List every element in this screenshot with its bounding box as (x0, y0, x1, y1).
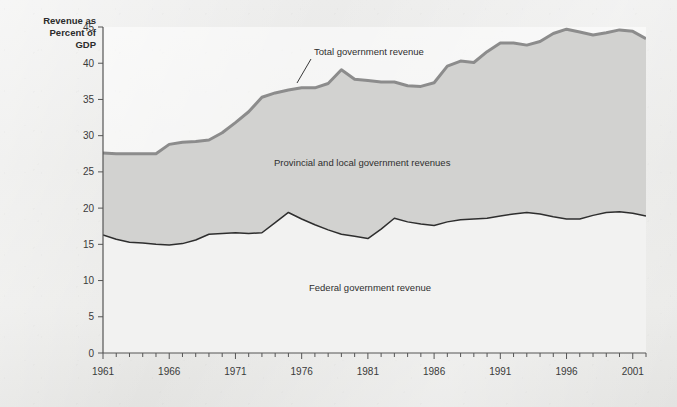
x-tick-label: 1996 (555, 366, 578, 377)
x-tick-label: 1966 (158, 366, 181, 377)
y-axis-title: Revenue as Percent of GDP (43, 15, 97, 50)
chart-svg: 051015202530354045 196119661971197619811… (0, 0, 677, 407)
annotation-federal-label: Federal government revenue (309, 282, 431, 293)
x-tick-label: 1961 (92, 366, 115, 377)
annotation-provincial-label: Provincial and local government revenues (274, 157, 451, 168)
y-tick-label: 10 (83, 275, 95, 286)
y-axis-title-line-3: GDP (75, 39, 96, 50)
x-tick-label: 1986 (423, 366, 446, 377)
x-tick-label: 1991 (489, 366, 512, 377)
y-tick-label: 20 (83, 203, 95, 214)
x-axis-ticks: 196119661971197619811986199119962001 (92, 353, 646, 377)
y-tick-label: 30 (83, 130, 95, 141)
x-tick-label: 1981 (357, 366, 380, 377)
y-tick-label: 40 (83, 58, 95, 69)
x-tick-label: 1976 (291, 366, 314, 377)
y-tick-label: 15 (83, 239, 95, 250)
revenue-area-chart: 051015202530354045 196119661971197619811… (0, 0, 677, 407)
x-tick-label: 1971 (224, 366, 247, 377)
y-axis-ticks: 051015202530354045 (83, 22, 103, 359)
y-tick-label: 25 (83, 166, 95, 177)
y-tick-label: 5 (88, 311, 94, 322)
y-tick-label: 35 (83, 94, 95, 105)
annotation-total-label: Total government revenue (314, 46, 424, 57)
y-tick-label: 0 (88, 348, 94, 359)
y-axis-title-line-1: Revenue as (43, 15, 96, 26)
y-axis-title-line-2: Percent of (50, 27, 97, 38)
x-tick-label: 2001 (622, 366, 645, 377)
